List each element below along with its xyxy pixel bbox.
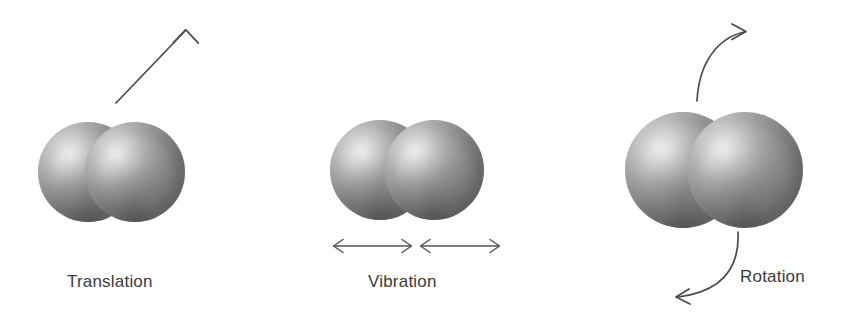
- panel-translation: Translation: [0, 0, 283, 315]
- caption-vibration: Vibration: [368, 272, 437, 292]
- atom-right: [384, 120, 484, 220]
- rotation-arrow-bottom: [676, 232, 738, 304]
- rotation-arrow-top: [697, 24, 746, 101]
- panel-rotation: Rotation: [566, 0, 850, 315]
- caption-rotation: Rotation: [740, 267, 805, 287]
- vibration-arrow-left: [334, 240, 412, 253]
- vibration-arrow-right: [421, 240, 500, 253]
- atom-right: [85, 122, 185, 222]
- molecular-motion-figure: Translation Vibration: [0, 0, 850, 315]
- caption-translation: Translation: [67, 272, 153, 292]
- atom-right: [687, 112, 803, 228]
- panel-vibration: Vibration: [283, 0, 566, 315]
